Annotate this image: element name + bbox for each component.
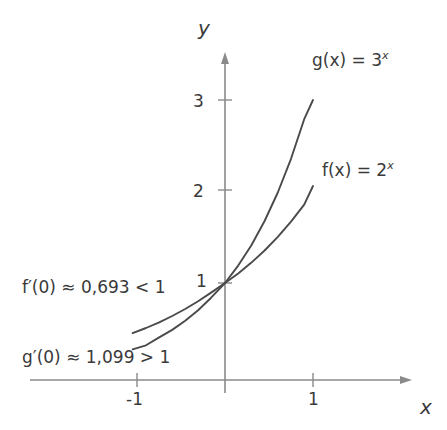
x-axis-arrowhead [400,376,412,384]
curve-label-g-exponent: x [382,49,389,62]
y-tick-label-2: 2 [193,183,204,200]
annotation-g-prime: g′(0) ≈ 1,099 > 1 [22,349,170,366]
y-axis-arrowhead [221,52,229,64]
x-tick-label-1: 1 [308,391,319,408]
curve-label-f-body: f(x) = 2 [322,160,387,180]
x-axis-label: x [420,397,432,417]
curve-label-f: f(x) = 2x [322,160,394,179]
exponential-functions-figure: y x 3 2 1 -1 1 g(x) = 3x f(x) = 2x f′(0)… [0,0,447,430]
curve-g [133,100,313,349]
curve-label-f-exponent: x [387,159,394,172]
curve-f [133,186,313,333]
curve-label-g: g(x) = 3x [312,50,389,69]
curve-label-g-body: g(x) = 3 [312,50,382,70]
y-tick-label-1: 1 [196,273,207,290]
annotation-f-prime: f′(0) ≈ 0,693 < 1 [22,279,166,296]
x-tick-label-neg1: -1 [126,391,143,408]
y-axis-label: y [198,18,210,38]
y-tick-label-3: 3 [193,93,204,110]
